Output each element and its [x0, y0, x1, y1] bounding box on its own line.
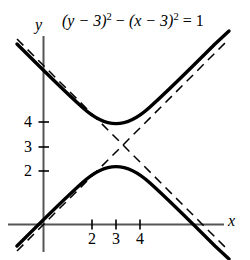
equation-term2-base: (x − 3) [129, 12, 174, 29]
equation-operator: − [116, 12, 125, 29]
x-tick-label-4: 4 [132, 231, 148, 247]
y-axis-name-label: y [35, 17, 42, 33]
x-tick-label-2: 2 [84, 231, 100, 247]
equation-equals: = [183, 12, 192, 29]
equation-term1-base: (y − 3) [62, 12, 107, 29]
hyperbola-upper-branch [17, 31, 229, 124]
y-tick-label-3: 3 [16, 139, 32, 155]
equation-annotation: (y − 3)2 − (x − 3)2 = 1 [62, 13, 204, 29]
y-tick-label-4: 4 [16, 114, 32, 130]
plot-canvas [0, 0, 250, 260]
equation-rhs: 1 [196, 12, 204, 29]
hyperbola-figure: (y − 3)2 − (x − 3)2 = 1 y x 4 3 2 2 3 4 [0, 0, 250, 260]
x-axis-name-label: x [228, 213, 235, 229]
x-tick-label-3: 3 [108, 231, 124, 247]
y-tick-label-2: 2 [16, 163, 32, 179]
equation-term1-exponent: 2 [107, 11, 112, 22]
equation-term2-exponent: 2 [173, 11, 178, 22]
